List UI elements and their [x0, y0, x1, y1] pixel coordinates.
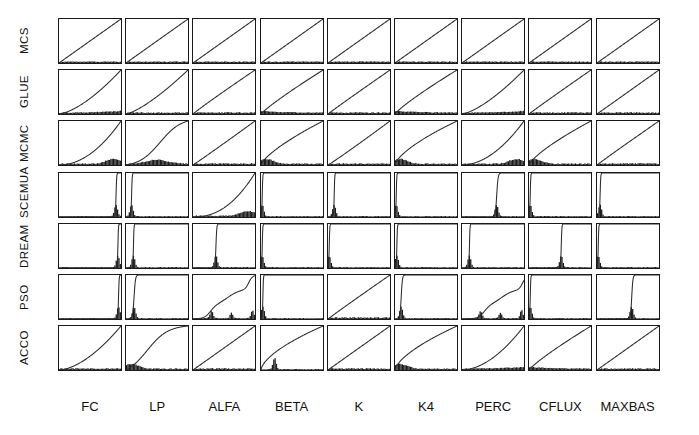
row-label-dream: DREAM: [18, 223, 30, 269]
cdf-curve: [462, 19, 524, 63]
cdf-curve: [529, 173, 591, 217]
panel-mcs-cflux: [528, 18, 592, 64]
panel-scemua-maxbas: [596, 172, 660, 218]
panel-glue-alfa: [192, 69, 256, 115]
histogram: [462, 205, 524, 217]
cdf-curve: [328, 19, 390, 63]
panel-scemua-beta: [260, 172, 324, 218]
col-label-maxbas: MAXBAS: [596, 399, 660, 414]
histogram: [59, 205, 121, 217]
cdf-curve: [395, 275, 457, 319]
panel-glue-k4: [394, 69, 458, 115]
histogram: [328, 204, 390, 216]
panel-glue-cflux: [528, 69, 592, 115]
panel-dream-k4: [394, 223, 458, 269]
histogram: [395, 307, 457, 319]
cdf-curve: [529, 70, 591, 114]
cdf-curve: [193, 326, 255, 370]
histogram: [328, 368, 390, 370]
row-label-mcs: MCS: [18, 18, 30, 64]
histogram: [126, 61, 188, 63]
cdf-curve: [597, 70, 659, 114]
cdf-curve: [597, 275, 659, 319]
panel-scemua-fc: [58, 172, 122, 218]
cdf-curve: [462, 173, 524, 217]
cdf-curve: [328, 275, 390, 319]
histogram: [59, 307, 121, 319]
panel-dream-cflux: [528, 223, 592, 269]
panel-scemua-perc: [461, 172, 525, 218]
histogram: [126, 112, 188, 114]
panel-mcmc-fc: [58, 120, 122, 166]
panel-mcmc-cflux: [528, 120, 592, 166]
cdf-curve: [328, 70, 390, 114]
panel-pso-alfa: [192, 274, 256, 320]
cdf-curve: [529, 326, 591, 370]
cdf-curve: [395, 121, 457, 165]
histogram: [328, 112, 390, 114]
cdf-curve: [597, 121, 659, 165]
panel-pso-k4: [394, 274, 458, 320]
col-label-fc: FC: [58, 399, 122, 414]
panel-glue-maxbas: [596, 69, 660, 115]
cdf-curve: [59, 326, 121, 370]
histogram: [395, 159, 457, 165]
cdf-curve: [529, 19, 591, 63]
cdf-curve: [59, 224, 121, 268]
histogram: [529, 308, 591, 319]
panel-dream-fc: [58, 223, 122, 269]
panel-acco-perc: [461, 325, 525, 371]
cdf-curve: [328, 121, 390, 165]
cdf-curve: [462, 280, 524, 319]
cdf-curve: [395, 326, 457, 370]
panel-mcmc-maxbas: [596, 120, 660, 166]
histogram: [328, 257, 390, 268]
panel-scemua-cflux: [528, 172, 592, 218]
panel-scemua-lp: [125, 172, 189, 218]
row-label-mcmc: MCMC: [18, 120, 30, 166]
histogram: [597, 257, 659, 268]
histogram: [529, 112, 591, 114]
panel-mcmc-k4: [394, 120, 458, 166]
col-label-alfa: ALFA: [192, 399, 256, 414]
cdf-curve: [597, 173, 659, 217]
col-label-k: K: [327, 399, 391, 414]
cdf-curve: [261, 70, 323, 114]
cdf-curve: [328, 326, 390, 370]
cdf-curve: [462, 121, 524, 165]
histogram: [597, 164, 659, 166]
cdf-curve: [597, 326, 659, 370]
panel-acco-k4: [394, 325, 458, 371]
panel-pso-lp: [125, 274, 189, 320]
histogram: [193, 368, 255, 370]
cdf-curve: [529, 121, 591, 165]
col-label-beta: BETA: [260, 399, 324, 414]
cdf-curve: [193, 224, 255, 268]
panel-mcs-alfa: [192, 18, 256, 64]
panel-dream-perc: [461, 223, 525, 269]
cdf-curve: [193, 173, 255, 217]
cdf-curve: [462, 326, 524, 370]
cdf-curve: [529, 275, 591, 319]
cdf-curve: [193, 276, 255, 319]
row-label-pso: PSO: [18, 274, 30, 320]
cdf-curve: [59, 19, 121, 63]
histogram: [193, 256, 255, 267]
panel-pso-k: [327, 274, 391, 320]
histogram: [395, 205, 457, 216]
cdf-curve: [261, 173, 323, 217]
panel-acco-lp: [125, 325, 189, 371]
col-label-lp: LP: [125, 399, 189, 414]
cdf-grid-figure: MCSGLUEMCMCSCEMUADREAMPSOACCOFCLPALFABET…: [0, 0, 699, 435]
cdf-curve: [395, 224, 457, 268]
histogram: [395, 61, 457, 63]
cdf-curve: [126, 70, 188, 114]
histogram: [193, 164, 255, 166]
panel-glue-lp: [125, 69, 189, 115]
panel-acco-maxbas: [596, 325, 660, 371]
panel-pso-beta: [260, 274, 324, 320]
histogram: [261, 358, 323, 370]
histogram: [395, 364, 457, 370]
panel-mcs-beta: [260, 18, 324, 64]
panel-acco-fc: [58, 325, 122, 371]
